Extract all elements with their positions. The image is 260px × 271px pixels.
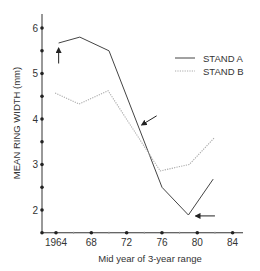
y-tick-label: 5	[32, 68, 38, 79]
y-tick-label: 4	[32, 114, 38, 125]
y-minor-tick-dot	[40, 94, 44, 98]
y-minor-tick-dot	[40, 185, 44, 189]
axes: 2345619646872768084	[32, 14, 243, 248]
annotations	[59, 48, 215, 216]
x-tick-label: 80	[192, 237, 204, 248]
line-chart: 2345619646872768084 STAND ASTAND B Mid y…	[0, 0, 260, 271]
y-tick-label: 2	[32, 205, 38, 216]
x-tick-label: 84	[227, 237, 239, 248]
x-tick-label: 68	[86, 237, 98, 248]
x-tick-dot	[125, 231, 129, 235]
x-tick-label: 72	[121, 237, 133, 248]
y-tick-dot	[40, 26, 44, 30]
x-tick-dot	[231, 231, 235, 235]
series-layer	[55, 37, 214, 215]
series-line-stand-b	[55, 91, 214, 171]
x-axis-title: Mid year of 3-year range	[98, 253, 202, 264]
legend: STAND ASTAND B	[175, 53, 244, 77]
legend-label: STAND A	[203, 53, 244, 64]
origin-dot	[40, 231, 44, 235]
y-axis-title: MEAN RING WIDTH (mm)	[11, 67, 22, 179]
y-tick-dot	[40, 208, 44, 212]
y-minor-tick-dot	[40, 49, 44, 53]
y-minor-tick-dot	[40, 140, 44, 144]
legend-label: STAND B	[203, 66, 243, 77]
series-line-stand-a	[59, 37, 214, 215]
y-tick-label: 6	[32, 23, 38, 34]
arrow-down-left-icon	[142, 116, 157, 125]
x-tick-dot	[160, 231, 164, 235]
y-tick-dot	[40, 163, 44, 167]
x-tick-dot	[195, 231, 199, 235]
x-tick-dot	[90, 231, 94, 235]
y-tick-label: 3	[32, 159, 38, 170]
y-tick-dot	[40, 72, 44, 76]
x-tick-dot	[54, 231, 58, 235]
x-tick-label: 76	[156, 237, 168, 248]
x-tick-label: 1964	[45, 237, 68, 248]
y-tick-dot	[40, 117, 44, 121]
